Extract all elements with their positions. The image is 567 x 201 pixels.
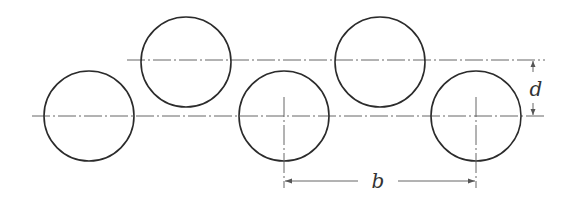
pitch-label: b [372, 169, 385, 193]
row-spacing-dimension: d [530, 61, 543, 115]
diagram-canvas: b d [0, 0, 567, 201]
pitch-arrow-right-icon [468, 179, 475, 184]
row-spacing-label: d [530, 77, 543, 101]
diagram-svg: b d [0, 0, 567, 201]
row-spacing-arrow-up-icon [531, 61, 536, 67]
pitch-arrow-left-icon [285, 179, 292, 184]
row-spacing-arrow-down-icon [531, 109, 536, 115]
circle-2 [141, 17, 231, 107]
circle-4 [335, 17, 425, 107]
pitch-dimension: b [285, 169, 475, 193]
